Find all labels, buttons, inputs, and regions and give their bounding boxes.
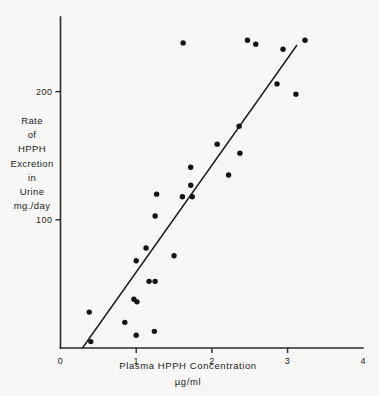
data-point (143, 245, 148, 250)
data-point (88, 339, 93, 344)
data-point (280, 47, 285, 52)
y-axis-title-group: RateofHPPHExcretioninUrinemg./day (10, 115, 53, 211)
x-axis-title-group: Plasma HPPH Concentration µg/ml (119, 360, 257, 387)
y-axis-title-line: mg./day (14, 200, 51, 211)
y-axis-title-line: of (28, 129, 37, 140)
data-point (190, 194, 195, 199)
data-point (152, 279, 157, 284)
data-point (274, 81, 279, 86)
data-point (293, 91, 298, 96)
data-point (154, 191, 159, 196)
y-axis-title-line: Excretion (10, 158, 53, 169)
y-tick-label: 200 (36, 87, 53, 97)
data-point (134, 299, 139, 304)
data-point (236, 124, 241, 129)
data-point (245, 38, 250, 43)
data-point (146, 279, 151, 284)
y-axis-title-line: Rate (21, 115, 43, 126)
data-point (237, 150, 242, 155)
data-point (188, 182, 193, 187)
y-tick-label: 100 (36, 215, 53, 225)
x-axis-units-label: µg/ml (175, 376, 201, 387)
data-point (180, 40, 185, 45)
data-point (87, 309, 92, 314)
data-point (253, 41, 258, 46)
data-point (152, 213, 157, 218)
data-point (180, 194, 185, 199)
axes-group (61, 17, 364, 348)
data-point (171, 253, 176, 258)
data-point (226, 172, 231, 177)
x-tick-label: 4 (361, 356, 367, 366)
data-point (152, 329, 157, 334)
data-point (214, 141, 219, 146)
y-axis-title-line: HPPH (18, 143, 46, 154)
y-axis-title-line: Urine (20, 186, 45, 197)
data-point (122, 320, 127, 325)
x-tick-label: 0 (58, 356, 64, 366)
data-point (302, 38, 307, 43)
plot-canvas: 01234 100200 Plasma HPPH Concentration µ… (0, 0, 379, 396)
y-axis-title-line: in (28, 172, 36, 183)
x-axis-title: Plasma HPPH Concentration (119, 360, 257, 371)
data-points-group (87, 38, 308, 345)
data-point (134, 258, 139, 263)
data-point (188, 165, 193, 170)
scatter-plot-figure: 01234 100200 Plasma HPPH Concentration µ… (0, 0, 379, 396)
x-tick-label: 3 (285, 356, 291, 366)
data-point (134, 332, 139, 337)
